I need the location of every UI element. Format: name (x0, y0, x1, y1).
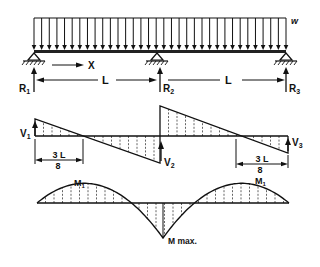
load-arrowhead (78, 45, 83, 50)
x-axis-arrow (52, 63, 84, 68)
load-arrowhead (47, 45, 52, 50)
load-arrowhead (131, 45, 136, 50)
load-arrowhead (238, 45, 243, 50)
reaction-r1-arrow (31, 67, 37, 92)
span-label-2: L (225, 74, 232, 86)
pin-support-icon (28, 53, 40, 60)
beam-diagram: w X R1 R2 R3 L (0, 0, 320, 267)
load-arrowhead (123, 45, 128, 50)
load-arrowhead (230, 45, 235, 50)
load-arrowhead (139, 45, 144, 50)
load-arrowhead (116, 45, 121, 50)
support-right (274, 53, 297, 65)
span-label-1: L (102, 74, 109, 86)
moment-diagram (37, 183, 289, 238)
reaction-r3-label: R3 (289, 83, 300, 95)
beam (34, 50, 286, 53)
moment-hatching (46, 183, 284, 238)
load-arrowhead (146, 45, 151, 50)
load-arrowhead (55, 45, 60, 50)
load-arrowhead (192, 45, 197, 50)
load-arrowhead (268, 45, 273, 50)
load-arrowhead (261, 45, 266, 50)
dimension-3l8-left-numerator: 3 L (52, 150, 66, 160)
load-arrowhead (154, 45, 159, 50)
v1-label: V1 (20, 128, 31, 140)
load-label: w (291, 16, 299, 26)
support-left (22, 53, 45, 65)
dimension-3l8-right-numerator: 3 L (255, 154, 269, 164)
load-arrowhead (200, 45, 205, 50)
v3-arrow (285, 138, 291, 151)
x-axis-label: X (88, 60, 95, 71)
load-arrowhead (162, 45, 167, 50)
load-arrowhead (177, 45, 182, 50)
v3-label: V3 (292, 137, 303, 149)
reaction-r1-label: R1 (19, 83, 30, 95)
support-middle (145, 53, 168, 65)
load-arrowhead (108, 45, 113, 50)
shear-diagram (32, 106, 291, 163)
load-arrowhead (62, 45, 67, 50)
load-arrowhead (39, 45, 44, 50)
load-arrowhead (85, 45, 90, 50)
load-arrowhead (100, 45, 105, 50)
load-arrowhead (93, 45, 98, 50)
reaction-r2-label: R2 (163, 83, 174, 95)
load-arrowhead (284, 45, 289, 50)
load-arrowhead (215, 45, 220, 50)
load-arrowhead (246, 45, 251, 50)
m1-right-label: M1 (255, 176, 267, 187)
load-arrowhead (207, 45, 212, 50)
m1-left-label: M1 (74, 178, 86, 189)
load-arrowhead (253, 45, 258, 50)
load-arrowhead (70, 45, 75, 50)
dimension-3l8-right-denominator: 8 (257, 165, 262, 175)
span-dimension-1 (36, 78, 157, 83)
v1-arrow (32, 121, 38, 136)
pin-support-icon (280, 53, 292, 60)
distributed-load (32, 18, 289, 50)
load-arrowhead (32, 45, 37, 50)
load-arrowhead (223, 45, 228, 50)
pin-support-icon (151, 53, 163, 60)
load-arrowhead (169, 45, 174, 50)
load-arrowhead (276, 45, 281, 50)
load-arrowhead (184, 45, 189, 50)
mmax-label: M max. (168, 236, 197, 246)
v2-label: V2 (164, 157, 175, 169)
dimension-3l8-left-denominator: 8 (55, 161, 60, 171)
load-arrows (32, 18, 289, 50)
